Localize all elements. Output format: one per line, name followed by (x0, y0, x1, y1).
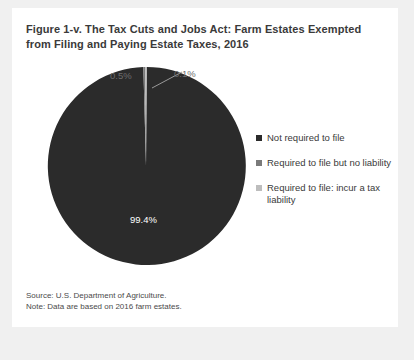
figure-footnotes: Source: U.S. Department of Agriculture. … (26, 290, 182, 312)
legend-item-label: Required to file: incur a tax liability (267, 182, 394, 206)
pie-chart: 0.5% 0.1% 99.4% Not required to file Req… (12, 8, 398, 327)
legend-item-required-no-liability: Required to file but no liability (256, 157, 394, 169)
legend-item-not-required-to-file: Not required to file (256, 132, 394, 144)
legend-item-required-tax-liability: Required to file: incur a tax liability (256, 182, 394, 206)
legend-marker-icon (256, 160, 262, 166)
pie-chart-svg (42, 62, 252, 272)
pie-label-0-1-percent: 0.1% (174, 68, 196, 79)
pie-label-0-5-percent: 0.5% (110, 70, 132, 81)
chart-legend: Not required to file Required to file bu… (256, 132, 394, 219)
legend-marker-icon (256, 185, 262, 191)
figure-card: Figure 1-v. The Tax Cuts and Jobs Act: F… (12, 8, 398, 327)
pie-label-99-4-percent: 99.4% (130, 214, 157, 225)
pie-slice-not-required-to-file (48, 67, 246, 265)
legend-item-label: Not required to file (267, 132, 345, 144)
figure-source: Source: U.S. Department of Agriculture. (26, 290, 182, 301)
legend-marker-icon (256, 135, 262, 141)
figure-note: Note: Data are based on 2016 farm estate… (26, 301, 182, 312)
legend-item-label: Required to file but no liability (267, 157, 391, 169)
